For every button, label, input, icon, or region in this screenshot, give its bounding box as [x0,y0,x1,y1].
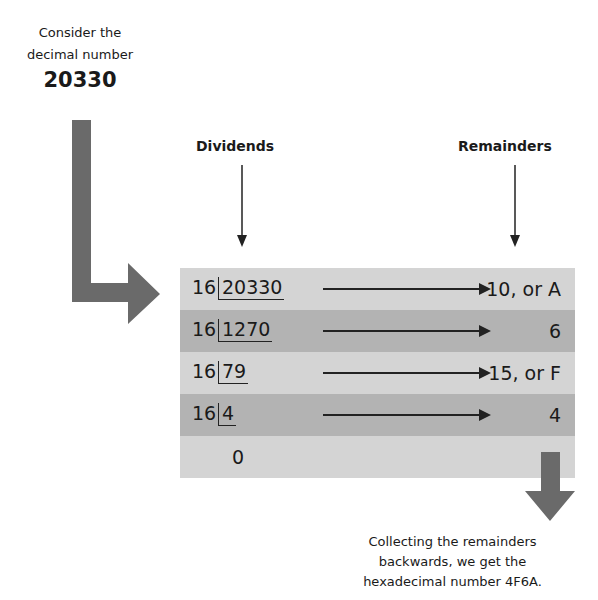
caption-line-3: hexadecimal number 4F6A. [320,572,585,592]
caption: Collecting the remainders backwards, we … [320,532,585,592]
result-down-arrow-icon [525,452,575,521]
caption-line-2: backwards, we get the [320,552,585,572]
caption-line-1: Collecting the remainders [320,532,585,552]
result-arrow-layer [0,0,598,600]
